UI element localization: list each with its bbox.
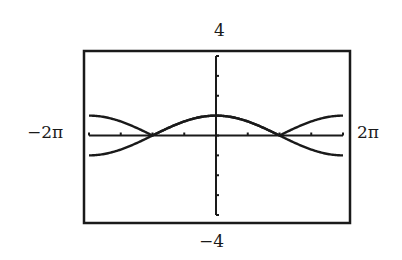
ymin-label: −4 — [199, 233, 224, 250]
xmax-label: 2π — [357, 124, 379, 141]
ymax-label: 4 — [214, 22, 225, 39]
xmin-label: −2π — [27, 124, 63, 141]
y-axis — [216, 56, 219, 215]
